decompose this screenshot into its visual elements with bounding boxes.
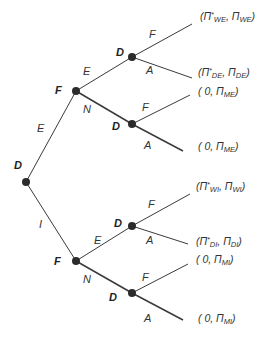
edge-label-dln-f: F [142, 272, 149, 283]
edge-dun-a [132, 124, 183, 151]
edge-due-f [132, 24, 192, 57]
edge-label-dun-f: F [142, 102, 149, 113]
node-d-upper-n [128, 120, 136, 128]
player-label-d-upper-n: D [112, 121, 120, 132]
edge-root-i [26, 182, 76, 261]
payoff-we: (Π*WE, ΠWE) [200, 11, 255, 24]
edge-label-dun-a: A [144, 140, 151, 151]
node-f-lower [72, 257, 80, 265]
edge-label-due-f: F [149, 29, 156, 40]
player-label-f-lower: F [54, 256, 61, 267]
payoff-me-2: ( 0, ΠME) [198, 141, 238, 154]
edge-label-fl-e: E [94, 235, 101, 246]
edge-fl-e [76, 226, 132, 261]
edge-dun-f [132, 95, 190, 124]
edge-label-root-e: E [37, 123, 44, 134]
payoff-wi: (Π*WI, ΠWI) [196, 181, 245, 194]
player-label-root: D [14, 160, 22, 171]
edge-dle-f [132, 194, 190, 226]
edge-due-a [132, 57, 192, 78]
edge-dle-a [132, 226, 188, 244]
edge-root-e [26, 91, 76, 182]
edge-label-dln-a: A [144, 313, 151, 324]
edge-dln-a [132, 293, 183, 320]
edge-label-fu-n: N [83, 104, 91, 115]
node-d-lower-n [128, 289, 136, 297]
edge-label-fu-e: E [83, 66, 90, 77]
payoff-mi-1: ( 0, ΠMI) [196, 254, 234, 267]
player-label-f-upper: F [55, 85, 62, 96]
game-tree [0, 0, 263, 337]
edge-dln-f [132, 264, 188, 293]
payoff-mi-2: ( 0, ΠMI) [198, 313, 236, 326]
node-root [22, 178, 30, 186]
node-f-upper [72, 87, 80, 95]
edge-label-fl-n: N [83, 274, 91, 285]
edge-label-root-i: I [39, 219, 42, 230]
edge-label-dle-f: F [148, 199, 155, 210]
node-d-lower-e [128, 222, 136, 230]
edge-label-due-a: A [146, 65, 153, 76]
payoff-me-1: ( 0, ΠME) [198, 86, 238, 99]
edge-label-dle-a: A [146, 235, 153, 246]
payoff-di: (Π*DI, ΠDI) [196, 236, 242, 249]
node-d-upper-e [128, 53, 136, 61]
player-label-d-lower-n: D [109, 292, 117, 303]
player-label-d-upper-e: D [116, 47, 124, 58]
payoff-de: (Π*DE, ΠDE) [198, 67, 250, 80]
player-label-d-lower-e: D [114, 218, 122, 229]
